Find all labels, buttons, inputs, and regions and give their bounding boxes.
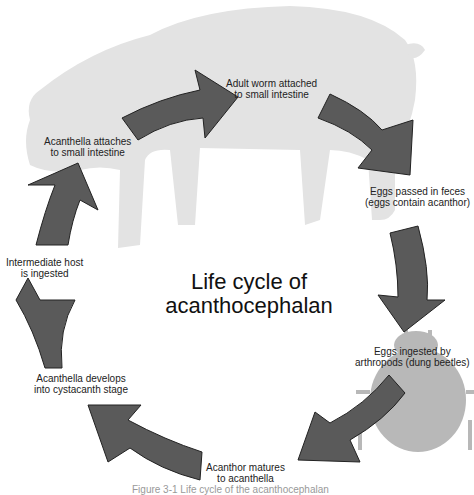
- arrow-7: [28, 163, 98, 245]
- arrow-6: [16, 278, 75, 368]
- stage-label-acanthor-matures: Acanthor matures to acanthella: [206, 462, 285, 484]
- arrow-3: [378, 226, 445, 332]
- stage-label-eggs-ingested: Eggs ingested by arthropods (dung beetle…: [355, 346, 470, 368]
- stage-label-acanthella-develops: Acanthella develops into cystacanth stag…: [34, 373, 128, 395]
- stage-label-intermediate-host: Intermediate host is ingested: [6, 257, 83, 279]
- stage-label-eggs-passed: Eggs passed in feces (eggs contain acant…: [365, 186, 470, 208]
- stage-label-adult-worm: Adult worm attached to small intestine: [226, 78, 317, 100]
- figure-caption: Figure 3-1 Life cycle of the acanthoceph…: [132, 484, 329, 495]
- stage-label-acanthella-attaches: Acanthella attaches to small intestine: [44, 136, 131, 158]
- arrow-5: [88, 405, 202, 480]
- diagram-title: Life cycle of acanthocephalan: [154, 270, 344, 318]
